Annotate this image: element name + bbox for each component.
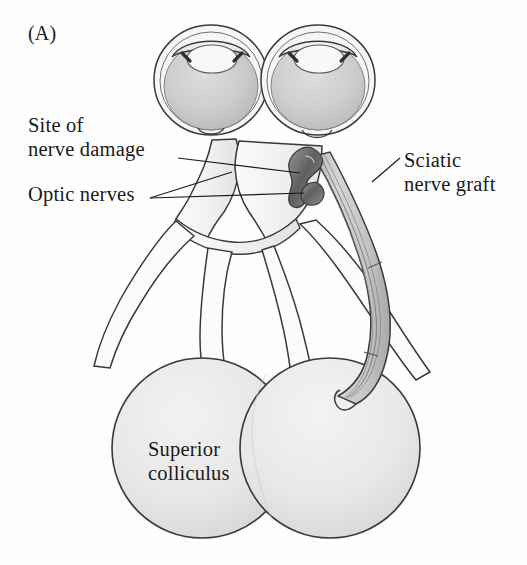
leader-sciatic — [372, 158, 400, 182]
panel-label: (A) — [28, 22, 56, 46]
label-superior-colliculus: Superior colliculus — [148, 437, 230, 485]
label-optic-nerves: Optic nerves — [28, 182, 135, 206]
left-eye — [154, 25, 268, 135]
figure-panel-a: (A) Site of nerve damage Optic nerves Sc… — [0, 0, 527, 565]
right-superior-colliculus — [240, 358, 420, 538]
anatomical-diagram — [0, 0, 527, 565]
right-eye — [261, 25, 375, 138]
label-site-of-nerve-damage: Site of nerve damage — [28, 113, 145, 161]
label-sciatic-nerve-graft: Sciatic nerve graft — [404, 148, 496, 196]
